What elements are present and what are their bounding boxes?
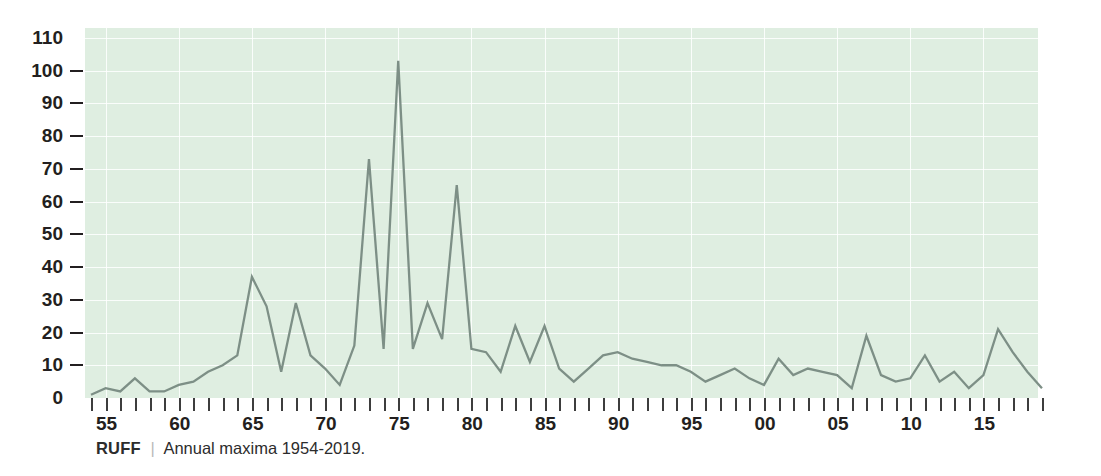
x-axis-tick-mark [837, 398, 839, 411]
x-axis-tick-mark [281, 398, 283, 411]
y-axis-tick-label: 30 [42, 291, 63, 309]
x-axis-tick-mark [164, 398, 166, 411]
x-axis-tick-mark [369, 398, 371, 411]
x-axis-tick-mark [120, 398, 122, 411]
x-axis-tick-mark [179, 398, 181, 411]
x-axis-tick-mark [340, 398, 342, 411]
x-axis-tick-mark [866, 398, 868, 411]
y-axis-tick: 110 [0, 29, 85, 47]
y-axis-tick-mark [70, 332, 83, 334]
x-axis-tick-mark [705, 398, 707, 411]
x-axis-tick-mark [998, 398, 1000, 411]
x-axis-tick-mark [735, 398, 737, 411]
y-axis-tick-mark [70, 70, 83, 72]
x-axis-tick-mark [91, 398, 93, 411]
x-axis-tick-mark [193, 398, 195, 411]
x-axis-tick-mark [1042, 398, 1044, 411]
y-axis-tick-label: 70 [42, 160, 63, 178]
x-axis-tick-mark [267, 398, 269, 411]
y-axis-tick: 20 [0, 324, 85, 342]
x-axis-tick-mark [1013, 398, 1015, 411]
x-axis-tick-mark [237, 398, 239, 411]
y-axis-tick: 100 [0, 62, 85, 80]
series-polyline [91, 61, 1042, 395]
x-axis-tick-label: 05 [828, 413, 849, 435]
x-axis-tick-mark [676, 398, 678, 411]
chart-caption: RUFF | Annual maxima 1954-2019. [96, 437, 365, 459]
x-axis-tick-mark [223, 398, 225, 411]
x-axis-tick-label: 10 [901, 413, 922, 435]
x-axis-tick-mark [940, 398, 942, 411]
x-axis-tick-mark [442, 398, 444, 411]
x-axis-tick-mark [296, 398, 298, 411]
x-axis-tick-mark [969, 398, 971, 411]
y-axis-tick: 0 [0, 389, 85, 407]
x-axis-tick-mark [106, 398, 108, 411]
x-axis-tick-label: 90 [608, 413, 629, 435]
x-axis-tick-label: 55 [96, 413, 117, 435]
y-axis-tick: 80 [0, 127, 85, 145]
x-axis-tick-mark [896, 398, 898, 411]
y-axis-tick: 40 [0, 258, 85, 276]
y-axis-tick: 70 [0, 160, 85, 178]
y-axis-tick-mark [70, 364, 83, 366]
x-axis-tick-mark [764, 398, 766, 411]
y-axis-tick-label: 90 [42, 94, 63, 112]
x-axis-tick-mark [618, 398, 620, 411]
x-axis-tick-mark [208, 398, 210, 411]
x-axis-tick-mark [691, 398, 693, 411]
x-axis-tick-mark [925, 398, 927, 411]
y-axis-tick-mark [70, 168, 83, 170]
y-axis-tick-label: 10 [42, 356, 63, 374]
x-axis-tick-mark [632, 398, 634, 411]
x-axis-tick-mark [530, 398, 532, 411]
x-axis-tick-label: 15 [974, 413, 995, 435]
y-axis-tick-label: 50 [42, 225, 63, 243]
x-axis-tick-label: 80 [462, 413, 483, 435]
x-axis-tick-mark [515, 398, 517, 411]
plot-area [85, 28, 1038, 398]
y-axis-tick: 50 [0, 225, 85, 243]
x-axis-tick-mark [574, 398, 576, 411]
series-line-chart [85, 28, 1038, 398]
x-axis-tick-mark [427, 398, 429, 411]
x-axis-tick-mark [749, 398, 751, 411]
x-axis-tick-mark [325, 398, 327, 411]
x-axis-tick-mark [486, 398, 488, 411]
y-axis-tick-mark [70, 201, 83, 203]
x-axis-tick-label: 70 [316, 413, 337, 435]
y-axis-tick-mark [70, 135, 83, 137]
x-axis-tick-mark [793, 398, 795, 411]
x-axis-tick-mark [471, 398, 473, 411]
y-axis-tick-label: 110 [32, 29, 63, 47]
x-axis-tick-mark [354, 398, 356, 411]
x-axis-tick-label: 00 [754, 413, 775, 435]
x-axis-tick-mark [588, 398, 590, 411]
x-axis-tick-label: 75 [389, 413, 410, 435]
y-axis-tick-label: 40 [42, 258, 63, 276]
x-axis-tick-mark [252, 398, 254, 411]
x-axis-tick-mark [310, 398, 312, 411]
y-axis-tick: 60 [0, 193, 85, 211]
x-axis-tick-mark [384, 398, 386, 411]
y-axis-tick-mark [70, 233, 83, 235]
caption-description: Annual maxima 1954-2019. [163, 439, 365, 457]
x-axis-tick-mark [954, 398, 956, 411]
y-axis-tick-mark [70, 102, 83, 104]
x-axis: 55606570758085909500051015 [85, 398, 1045, 438]
x-axis-tick-mark [603, 398, 605, 411]
y-axis-tick-label: 20 [42, 324, 63, 342]
x-axis-tick-mark [852, 398, 854, 411]
y-axis-tick-label: 80 [42, 127, 63, 145]
y-axis-tick-mark [70, 299, 83, 301]
y-axis-tick: 90 [0, 94, 85, 112]
x-axis-tick-mark [983, 398, 985, 411]
y-axis-tick-label: 0 [52, 389, 63, 407]
caption-series-name: RUFF [96, 439, 141, 457]
x-axis-tick-mark [457, 398, 459, 411]
chart-figure: 1101009080706050403020100 55606570758085… [0, 0, 1101, 476]
y-axis: 1101009080706050403020100 [0, 0, 85, 420]
caption-separator: | [145, 439, 159, 457]
x-axis-tick-mark [881, 398, 883, 411]
x-axis-tick-mark [1027, 398, 1029, 411]
